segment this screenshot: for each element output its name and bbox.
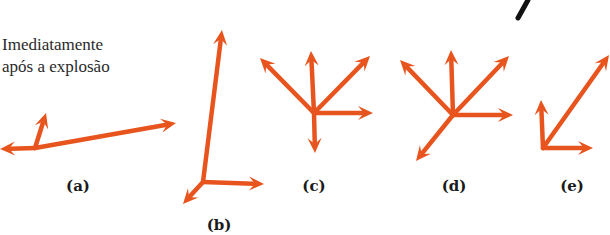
panel-label-c: (c) (302, 177, 325, 195)
vector-shaft (541, 111, 543, 148)
vector-shaft (423, 115, 453, 152)
panel-label-e: (e) (560, 177, 584, 195)
vector-shaft (451, 61, 453, 115)
vector-shaft (453, 64, 501, 115)
partial-black-stroke-mark (518, 0, 528, 18)
panel-c-arrows (260, 51, 373, 153)
vector-shaft (268, 66, 314, 113)
vector-shaft (543, 64, 603, 148)
vector-shaft (35, 123, 43, 148)
panel-label-a: (a) (66, 177, 90, 195)
vector-shaft (408, 68, 453, 115)
panel-d-arrows (400, 50, 513, 161)
vector-shaft (35, 125, 165, 148)
panel-a-arrows (0, 113, 176, 156)
vector-shaft (203, 41, 221, 182)
vector-shaft (314, 113, 315, 142)
momentum-vector-diagrams (0, 0, 610, 235)
vector-shaft (312, 62, 314, 113)
vector-shaft (314, 64, 362, 113)
vector-shaft (11, 148, 35, 149)
vector-shaft (203, 182, 253, 184)
vector-shaft (190, 182, 203, 196)
panel-label-b: (b) (207, 216, 232, 234)
panel-b-arrows (183, 30, 264, 204)
panel-e-arrows (535, 55, 609, 155)
panel-label-d: (d) (442, 177, 467, 195)
